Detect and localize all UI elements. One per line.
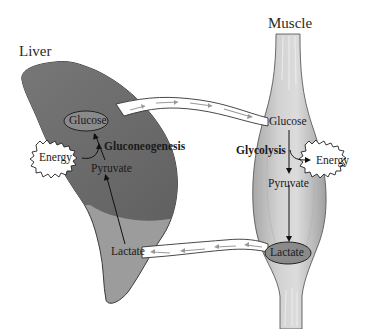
liver-process-label: Gluconeogenesis (104, 141, 185, 153)
liver-title: Liver (19, 44, 51, 59)
muscle-pyruvate-label: Pyruvate (268, 178, 309, 190)
liver-lactate-label: Lactate (111, 246, 145, 258)
liver-glucose-label: Glucose (69, 115, 107, 127)
muscle-energy-label: Energy (316, 155, 349, 167)
lactate-transport-channel (142, 239, 268, 258)
muscle-glucose-label: Glucose (269, 116, 307, 128)
liver-energy-label: Energy (39, 152, 72, 164)
muscle-lactate-label: Lactate (270, 247, 304, 259)
liver-pyruvate-label: Pyruvate (91, 163, 132, 175)
muscle-process-label: Glycolysis (236, 145, 286, 157)
muscle-title: Muscle (268, 16, 312, 31)
cori-cycle-diagram: Liver Muscle Glucose Gluconeogenesis Ene… (0, 0, 378, 329)
